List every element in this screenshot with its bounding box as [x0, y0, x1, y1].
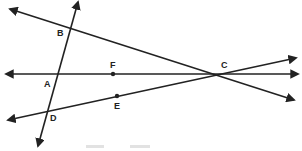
- label-b: B: [57, 28, 64, 38]
- line-dec: [8, 58, 296, 120]
- geometry-diagram: B A D F E C: [0, 0, 302, 151]
- point-f-dot: [111, 72, 115, 76]
- footer-decoration-left: [86, 145, 104, 148]
- label-a: A: [44, 79, 51, 89]
- label-d: D: [50, 113, 57, 123]
- label-e: E: [114, 101, 120, 111]
- point-e-dot: [115, 94, 119, 98]
- label-c: C: [221, 60, 228, 70]
- footer-decoration-right: [130, 145, 150, 148]
- label-f: F: [110, 60, 116, 70]
- line-bc: [10, 9, 294, 100]
